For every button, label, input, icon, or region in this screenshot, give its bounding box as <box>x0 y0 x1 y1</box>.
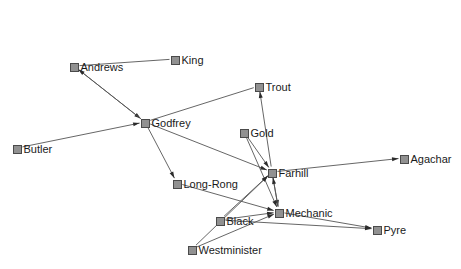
network-graph-canvas: AndrewsKingTroutGodfreyGoldButlerFarhill… <box>0 0 461 269</box>
graph-node-westminister[interactable]: Westminister <box>188 245 262 256</box>
graph-node-black[interactable]: Black <box>216 216 254 227</box>
graph-edge <box>148 127 175 178</box>
graph-edge-arrowhead <box>267 207 274 211</box>
graph-edge-arrowhead <box>267 214 274 218</box>
graph-node-label: Mechanic <box>286 208 333 219</box>
graph-node-label: Long-Rong <box>184 179 238 190</box>
graph-node-butler[interactable]: Butler <box>13 144 53 155</box>
node-square-icon <box>13 145 22 154</box>
graph-node-long-rong[interactable]: Long-Rong <box>173 179 238 190</box>
graph-node-pyre[interactable]: Pyre <box>373 225 407 236</box>
node-square-icon <box>173 180 182 189</box>
graph-node-label: Black <box>227 216 254 227</box>
graph-node-mechanic[interactable]: Mechanic <box>275 208 333 219</box>
graph-node-label: Trout <box>266 82 291 93</box>
graph-edge-line <box>150 88 254 121</box>
graph-edge-arrowhead <box>170 171 175 178</box>
graph-node-label: Westminister <box>199 245 262 256</box>
node-square-icon <box>216 217 225 226</box>
graph-node-label: Agachar <box>411 154 452 165</box>
graph-edge-arrowhead <box>133 122 140 126</box>
node-square-icon <box>240 129 249 138</box>
graph-node-label: King <box>182 55 204 66</box>
node-square-icon <box>171 56 180 65</box>
node-square-icon <box>255 83 264 92</box>
node-square-icon <box>268 169 277 178</box>
graph-edge-arrowhead <box>392 157 399 161</box>
graph-edge-arrowhead <box>260 166 267 170</box>
graph-node-label: Godfrey <box>152 118 191 129</box>
graph-node-label: Andrews <box>81 62 124 73</box>
graph-node-andrews[interactable]: Andrews <box>70 62 124 73</box>
graph-edge-line <box>78 69 140 118</box>
node-square-icon <box>275 209 284 218</box>
graph-node-king[interactable]: King <box>171 55 204 66</box>
node-square-icon <box>400 155 409 164</box>
node-square-icon <box>70 63 79 72</box>
graph-node-trout[interactable]: Trout <box>255 82 291 93</box>
node-square-icon <box>141 119 150 128</box>
graph-node-label: Gold <box>251 128 274 139</box>
graph-edge <box>247 137 269 168</box>
graph-edge <box>78 69 140 118</box>
graph-edge-line <box>148 127 175 178</box>
graph-node-gold[interactable]: Gold <box>240 128 274 139</box>
node-square-icon <box>373 226 382 235</box>
graph-edge <box>150 88 254 121</box>
graph-node-label: Butler <box>24 144 53 155</box>
graph-node-agachar[interactable]: Agachar <box>400 154 452 165</box>
graph-node-farhill[interactable]: Farhill <box>268 168 309 179</box>
graph-node-godfrey[interactable]: Godfrey <box>141 118 191 129</box>
graph-node-label: Pyre <box>384 225 407 236</box>
graph-node-label: Farhill <box>279 168 309 179</box>
node-square-icon <box>188 246 197 255</box>
